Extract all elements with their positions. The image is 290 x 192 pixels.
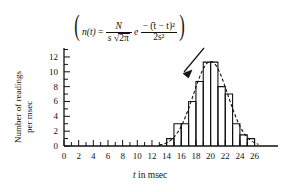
- histogram-bar: [181, 124, 188, 146]
- histogram-bars: [167, 62, 255, 146]
- x-tick-label: 0: [62, 151, 67, 161]
- histogram-bar: [211, 62, 218, 146]
- x-tick-label: 2: [76, 151, 81, 161]
- histogram-bar: [233, 124, 240, 146]
- x-tick-label: 14: [162, 151, 171, 161]
- x-tick-label: 10: [133, 151, 142, 161]
- histogram-bar: [189, 101, 196, 146]
- x-ticks: [64, 140, 255, 146]
- y-tick-label: 4: [40, 111, 58, 121]
- y-tick-label: 12: [40, 52, 58, 62]
- x-tick-label: 24: [235, 151, 244, 161]
- x-tick-label: 8: [120, 151, 125, 161]
- y-tick-label: 8: [40, 82, 58, 92]
- x-tick-label: 18: [191, 151, 200, 161]
- y-tick-label: 6: [40, 96, 58, 106]
- y-tick-label: 10: [40, 67, 58, 77]
- y-tick-label: 2: [40, 126, 58, 136]
- histogram-bar: [225, 94, 232, 146]
- histogram-bar: [240, 135, 247, 146]
- x-tick-label: 4: [91, 151, 96, 161]
- y-tick-label: 0: [40, 141, 58, 151]
- figure-container: (n(t) = N s √2π e − (̄t − t)² 2s² ) Numb…: [0, 0, 290, 192]
- histogram-bar: [196, 81, 203, 146]
- axes: [64, 48, 278, 146]
- x-tick-label: 22: [221, 151, 230, 161]
- histogram-bar: [218, 87, 225, 146]
- x-tick-label: 6: [106, 151, 111, 161]
- x-tick-label: 26: [250, 151, 259, 161]
- x-tick-label: 20: [206, 151, 215, 161]
- histogram-bar: [203, 62, 210, 146]
- x-tick-label: 16: [177, 151, 186, 161]
- histogram-bar: [167, 139, 174, 146]
- x-tick-label: 12: [147, 151, 156, 161]
- arrow-shaft: [184, 48, 204, 72]
- y-ticks: [64, 50, 70, 146]
